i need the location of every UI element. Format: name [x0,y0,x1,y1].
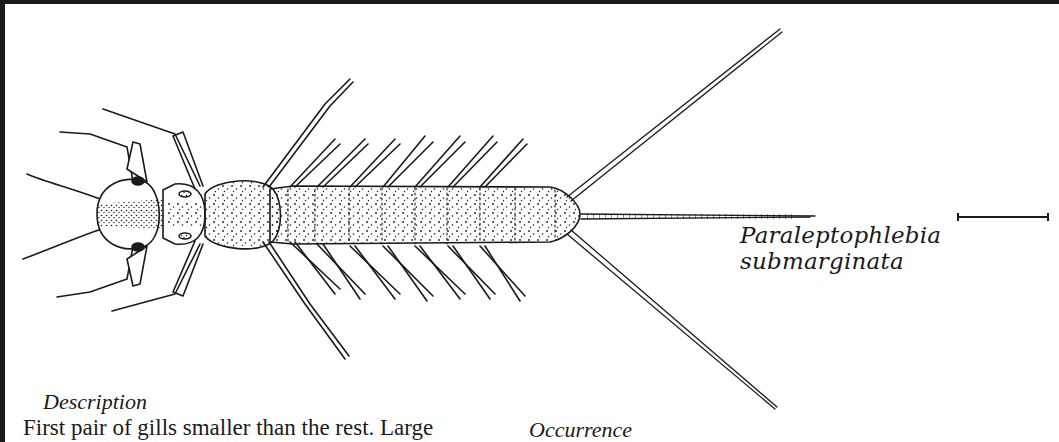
description-text: First pair of gills smaller than the res… [23,415,433,441]
species-name: Paraleptophlebia submarginata [740,222,1059,274]
page: Paraleptophlebia submarginata Descriptio… [0,0,1059,442]
occurrence-heading: Occurrence [529,417,632,442]
description-heading: Description [43,389,147,415]
scale-bar [957,212,1049,222]
